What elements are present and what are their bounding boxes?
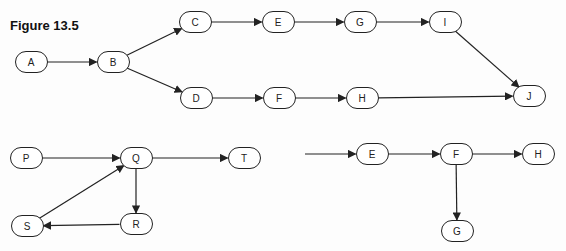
node-top-c: C (179, 11, 212, 33)
node-bottom-left-s: S (11, 215, 44, 237)
edge-layer (0, 0, 566, 251)
node-bottom-right-g: G (441, 220, 474, 242)
edge-r-s (43, 224, 119, 225)
edge-b-d (127, 68, 182, 92)
node-bottom-left-r: R (120, 213, 153, 235)
node-top-a: A (15, 51, 48, 73)
node-bottom-left-p: P (10, 147, 43, 169)
edge-b-c (126, 28, 181, 55)
figure-canvas: Figure 13.5 ABCEGIDFHJPQTRSEFHG (0, 0, 566, 251)
node-top-f: F (263, 87, 296, 109)
edge-s-q (39, 166, 124, 219)
node-top-d: D (180, 87, 213, 109)
node-bottom-left-q: Q (120, 147, 153, 169)
edge-i-j (455, 31, 519, 87)
node-bottom-right-h: H (522, 143, 555, 165)
node-top-b: B (97, 51, 130, 73)
edge-f-g (456, 165, 457, 220)
node-bottom-right-e: E (356, 143, 389, 165)
node-bottom-left-t: T (228, 147, 261, 169)
node-top-h: H (346, 87, 379, 109)
node-top-g: G (344, 11, 377, 33)
node-top-e: E (262, 11, 295, 33)
edge-h-j (378, 96, 512, 98)
node-top-j: J (513, 85, 546, 107)
node-bottom-right-f: F (440, 143, 473, 165)
node-top-i: I (429, 11, 462, 33)
